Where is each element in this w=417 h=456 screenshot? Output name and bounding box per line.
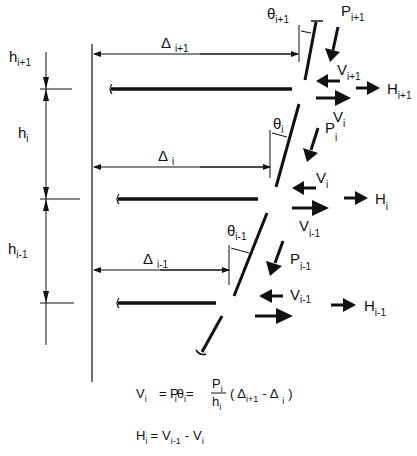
displacement-labels: Δi+1 Δi Δi-1 bbox=[143, 34, 189, 270]
displacement-arrows bbox=[94, 54, 298, 270]
svg-text:θi+1: θi+1 bbox=[267, 5, 289, 25]
svg-text:Vi-1: Vi-1 bbox=[299, 217, 321, 239]
svg-text:Hi=Vi-1-Vi: Hi=Vi-1-Vi bbox=[136, 428, 204, 446]
svg-text:Pi: Pi bbox=[212, 376, 223, 394]
equation-lateral: Hi=Vi-1-Vi bbox=[136, 428, 204, 446]
story-height-labels: hi+1 hi hi-1 bbox=[8, 48, 31, 260]
svg-text:Hi+1: Hi+1 bbox=[387, 80, 412, 101]
p-delta-diagram: hi+1 hi hi-1 Δi+1 Δi Δi-1 θi+1 θi θi-1 P… bbox=[0, 0, 417, 456]
svg-text:hi: hi bbox=[18, 124, 29, 144]
shear-right-arrows bbox=[255, 90, 351, 324]
svg-text:hi+1: hi+1 bbox=[9, 48, 31, 68]
svg-text:hi: hi bbox=[212, 394, 221, 412]
floor-slabs bbox=[110, 84, 292, 308]
diagram-canvas: hi+1 hi hi-1 Δi+1 Δi Δi-1 θi+1 θi θi-1 P… bbox=[0, 0, 417, 456]
svg-text:Vi: Vi bbox=[316, 169, 328, 190]
svg-text:Vi+1: Vi+1 bbox=[337, 61, 361, 82]
svg-text:Piθi=: Piθi= bbox=[170, 386, 194, 404]
rotation-labels: θi+1 θi θi-1 bbox=[227, 5, 289, 242]
equation-shear: Vi = Piθi= Pi hi (Δi+1-Δi) bbox=[136, 376, 293, 412]
svg-text:Vi-1: Vi-1 bbox=[290, 286, 312, 305]
svg-text:Vi: Vi bbox=[136, 386, 147, 404]
svg-text:=: = bbox=[159, 386, 167, 401]
svg-text:θi-1: θi-1 bbox=[227, 222, 247, 242]
svg-text:(Δi+1-Δi): (Δi+1-Δi) bbox=[230, 386, 293, 406]
rotation-reference-ticks bbox=[229, 25, 311, 285]
svg-text:Pi+1: Pi+1 bbox=[341, 2, 365, 23]
svg-text:Pi-1: Pi-1 bbox=[290, 250, 312, 272]
svg-text:θi: θi bbox=[273, 115, 284, 135]
svg-text:Δi: Δi bbox=[158, 147, 174, 167]
svg-text:Hi: Hi bbox=[375, 190, 388, 212]
svg-text:Hi-1: Hi-1 bbox=[364, 297, 386, 318]
gravity-load-arrows bbox=[266, 27, 340, 276]
svg-text:Δi-1: Δi-1 bbox=[143, 250, 169, 270]
lateral-force-labels: Hi+1 Hi Hi-1 bbox=[364, 80, 412, 318]
story-height-dimension bbox=[40, 52, 80, 345]
svg-text:hi-1: hi-1 bbox=[8, 240, 28, 260]
svg-text:Δi+1: Δi+1 bbox=[161, 34, 189, 54]
